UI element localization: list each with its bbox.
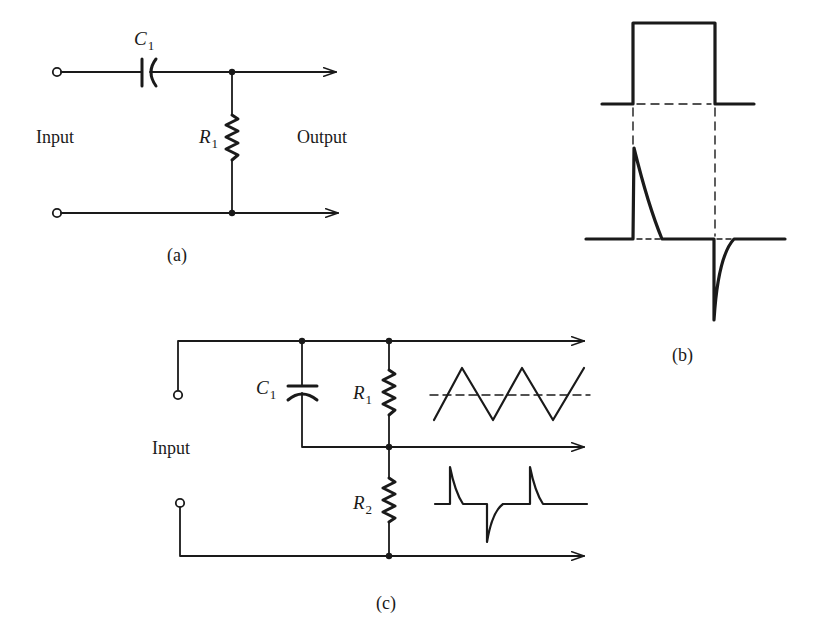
panel-a-circuit (53, 59, 338, 217)
caption-b: (b) (672, 346, 693, 364)
output-label: Output (297, 128, 347, 146)
resistor-r2-label: R2 (353, 493, 372, 516)
symbol-subscript: 1 (148, 38, 155, 53)
symbol-letter: R (199, 126, 211, 147)
triangle-waveform (434, 368, 584, 420)
input-label: Input (152, 439, 190, 457)
input-terminal-bottom (176, 499, 184, 507)
symbol-subscript: 1 (270, 387, 277, 402)
capacitor-c1-label: C1 (134, 29, 154, 52)
junction-node (386, 553, 392, 559)
input-terminal-top (174, 391, 182, 399)
symbol-letter: C (256, 377, 269, 398)
caption-a: (a) (167, 246, 187, 264)
capacitor-c1-label: C1 (256, 378, 276, 401)
symbol-letter: R (353, 492, 365, 513)
resistor-r1-icon (383, 370, 395, 415)
symbol-subscript: 1 (212, 136, 219, 151)
resistor-r1-icon (226, 115, 238, 160)
input-terminal-bottom (53, 209, 61, 217)
junction-node (229, 210, 235, 216)
panel-c-circuit (174, 338, 590, 559)
symbol-subscript: 1 (366, 392, 373, 407)
panel-b-waveforms (586, 23, 785, 320)
circuit-diagram (0, 0, 817, 639)
symbol-subscript: 2 (366, 502, 373, 517)
input-label: Input (36, 128, 74, 146)
resistor-r1-label: R1 (353, 383, 372, 406)
caption-c: (c) (376, 594, 396, 612)
resistor-r2-icon (383, 478, 395, 522)
square-pulse-waveform (602, 23, 754, 104)
differentiated-spike-waveform (586, 148, 785, 320)
resistor-r1-label: R1 (199, 127, 218, 150)
symbol-letter: R (353, 382, 365, 403)
spike-train-waveform (435, 467, 587, 542)
symbol-letter: C (134, 28, 147, 49)
input-terminal-top (53, 68, 61, 76)
